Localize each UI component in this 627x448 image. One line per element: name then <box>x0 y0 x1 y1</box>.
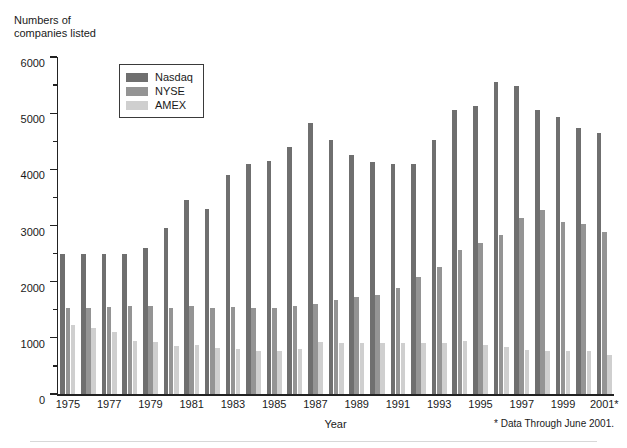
x-axis-tick-label: 1987 <box>303 398 327 410</box>
x-axis-tick-label: 1979 <box>138 398 162 410</box>
bar-amex-1981 <box>195 345 200 394</box>
x-axis-line <box>57 394 614 396</box>
legend-label: NYSE <box>155 86 185 97</box>
legend-label: AMEX <box>155 100 186 111</box>
bar-nasdaq-1984 <box>246 164 251 394</box>
bar-amex-1986 <box>298 349 303 394</box>
bar-nasdaq-1977 <box>102 254 107 394</box>
bottom-divider <box>30 441 597 442</box>
legend-item-amex: AMEX <box>126 98 197 112</box>
bar-nasdaq-1995 <box>473 106 478 394</box>
bar-amex-1982 <box>215 348 220 394</box>
y-axis-major-tick <box>50 225 57 226</box>
bar-nyse-1983 <box>231 307 236 394</box>
y-axis-tick-label: 4000 <box>21 169 45 181</box>
y-axis-tick-label: 1000 <box>21 338 45 350</box>
bar-nyse-1994 <box>458 250 463 394</box>
bar-nyse-1996 <box>499 235 504 394</box>
bar-amex-1985 <box>277 351 282 394</box>
legend-label: Nasdaq <box>155 72 193 83</box>
bar-amex-1978 <box>133 341 138 394</box>
x-axis-tick-label: 1985 <box>262 398 286 410</box>
bar-amex-1988 <box>339 343 344 394</box>
bar-nyse-1999 <box>561 222 566 394</box>
bar-nasdaq-1983 <box>226 175 231 394</box>
bar-nasdaq-2000 <box>576 128 581 394</box>
bar-amex-1975 <box>71 325 76 394</box>
bar-amex-1980 <box>174 346 179 394</box>
bar-amex-1976 <box>91 328 96 394</box>
bar-nasdaq-1988 <box>329 140 334 394</box>
bar-nyse-1978 <box>128 306 133 394</box>
bar-nyse-1989 <box>354 297 359 394</box>
y-axis-tick-label: 3000 <box>21 226 45 238</box>
legend-swatch-nasdaq-icon <box>126 73 148 82</box>
bar-nasdaq-1996 <box>494 82 499 394</box>
bar-amex-1991 <box>401 343 406 394</box>
y-axis-tick-label: 0 <box>39 394 45 406</box>
bar-nasdaq-1990 <box>370 162 375 394</box>
bar-nyse-1976 <box>86 308 91 394</box>
bar-nyse-1993 <box>437 267 442 394</box>
bar-amex-1998 <box>545 351 550 394</box>
y-axis-tick-label: 6000 <box>21 57 45 69</box>
bar-nasdaq-1982 <box>205 209 210 394</box>
bar-nasdaq-1976 <box>81 254 86 394</box>
y-axis-title: Numbers of companies listed <box>14 14 96 40</box>
bar-nyse-1991 <box>396 288 401 394</box>
bar-amex-2001 <box>607 355 612 394</box>
bar-nasdaq-1989 <box>349 155 354 394</box>
x-axis-tick-label: 1983 <box>221 398 245 410</box>
y-axis-major-tick <box>50 113 57 114</box>
bar-amex-1989 <box>360 343 365 394</box>
bar-amex-1992 <box>421 343 426 394</box>
bar-nyse-2000 <box>581 224 586 394</box>
y-axis-major-tick <box>50 393 57 394</box>
bar-amex-1999 <box>566 351 571 394</box>
bar-nasdaq-1998 <box>535 110 540 394</box>
bar-amex-1993 <box>442 343 447 394</box>
bar-amex-1995 <box>483 345 488 394</box>
bar-nyse-1987 <box>313 304 318 394</box>
bar-nasdaq-1992 <box>411 164 416 394</box>
bar-nasdaq-2001 <box>597 133 602 394</box>
bar-amex-1977 <box>112 332 117 394</box>
bar-amex-1984 <box>256 351 261 394</box>
bar-amex-1990 <box>380 343 385 394</box>
bar-amex-1987 <box>318 342 323 394</box>
bar-nyse-1998 <box>540 210 545 394</box>
bar-nyse-1975 <box>66 308 71 394</box>
bar-nyse-1984 <box>251 308 256 394</box>
x-axis-tick-label: 1995 <box>468 398 492 410</box>
bar-nyse-1979 <box>148 306 153 394</box>
y-axis-major-tick <box>50 337 57 338</box>
bar-nasdaq-1993 <box>432 140 437 394</box>
bar-nyse-2001 <box>602 232 607 394</box>
legend-item-nyse: NYSE <box>126 84 197 98</box>
chart-figure: Numbers of companies listed 010002000300… <box>0 0 627 448</box>
bar-amex-1983 <box>236 349 241 394</box>
bar-nyse-1995 <box>478 243 483 394</box>
bar-nasdaq-1997 <box>514 86 519 394</box>
bar-nasdaq-1975 <box>60 254 65 394</box>
bar-amex-1996 <box>504 347 509 394</box>
footnote-text: * Data Through June 2001. <box>494 418 614 429</box>
bar-nyse-1980 <box>169 308 174 394</box>
bar-nasdaq-1980 <box>164 228 169 394</box>
legend-swatch-amex-icon <box>126 101 148 110</box>
x-axis-tick-labels: 1975197719791981198319851987198919911993… <box>57 398 614 416</box>
bar-amex-2000 <box>587 351 592 394</box>
x-axis-tick-label: 1981 <box>179 398 203 410</box>
bar-nyse-1992 <box>416 277 421 394</box>
chart-legend: NasdaqNYSEAMEX <box>119 64 204 118</box>
x-axis-tick-label: 1977 <box>97 398 121 410</box>
y-axis-major-tick <box>50 56 57 57</box>
bar-nasdaq-1991 <box>391 164 396 394</box>
y-axis-tick-label: 5000 <box>21 113 45 125</box>
bar-nyse-1977 <box>107 307 112 394</box>
bar-nasdaq-1985 <box>267 161 272 394</box>
legend-swatch-nyse-icon <box>126 87 148 96</box>
x-axis-tick-label: 1991 <box>386 398 410 410</box>
bar-nasdaq-1979 <box>143 248 148 394</box>
bar-nasdaq-1987 <box>308 123 313 394</box>
